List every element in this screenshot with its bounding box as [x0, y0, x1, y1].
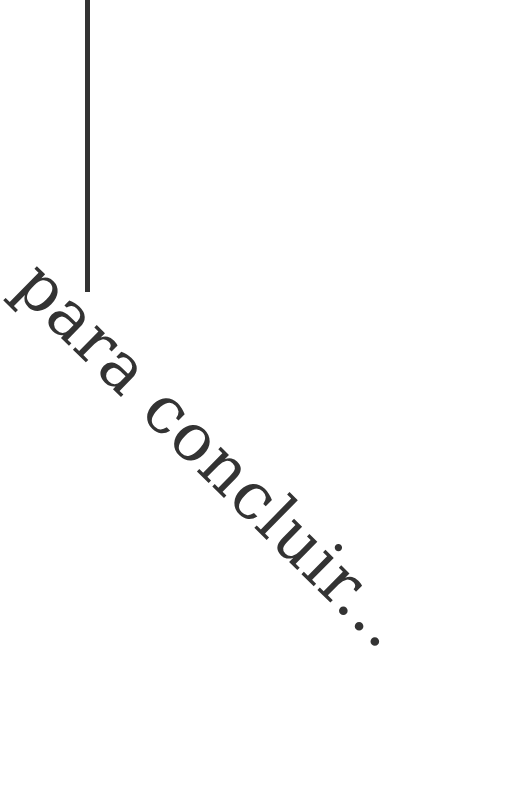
- vertical-line: [85, 0, 90, 292]
- rotated-title: para concluir...: [4, 250, 419, 660]
